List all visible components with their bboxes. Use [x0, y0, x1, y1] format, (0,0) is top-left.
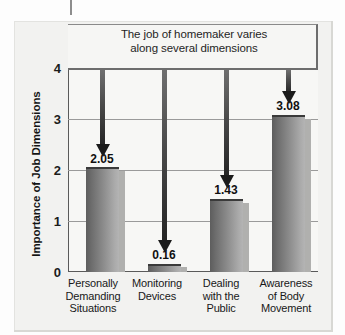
xtick-label-1-line-1: Personally — [62, 277, 124, 290]
annotation-arrow-head-4 — [282, 91, 296, 104]
figure-panel-right-edge — [331, 21, 333, 331]
y-axis-title: Importance of Job Dimensions — [30, 69, 42, 279]
annotation-arrow-shaft-1 — [100, 70, 105, 146]
annotation-arrow-shaft-4 — [286, 70, 291, 93]
xtick-label-4-line-3: Movement — [253, 302, 319, 315]
chart-title-line-1: The job of homemaker varies — [76, 27, 312, 41]
bar-cap-3 — [210, 199, 243, 201]
xtick-label-2-line-1: Monitoring — [126, 277, 188, 290]
ytick-label-2: 2 — [41, 163, 61, 178]
bar-4 — [272, 115, 305, 272]
chart-title: The job of homemaker varies along severa… — [76, 27, 312, 55]
ytick-label-3: 3 — [41, 112, 61, 127]
ytick-label-0: 0 — [41, 265, 61, 280]
ytick-label-1: 1 — [41, 214, 61, 229]
bar-shadow-1 — [119, 171, 125, 272]
xtick-label-4: Awareness of Body Movement — [253, 277, 319, 315]
bar-shadow-3 — [243, 203, 249, 272]
xtick-label-2: Monitoring Devices — [126, 277, 188, 302]
xtick-label-4-line-1: Awareness — [253, 277, 319, 290]
xtick-label-1: Personally Demanding Situations — [62, 277, 124, 315]
annotation-arrow-shaft-2 — [162, 70, 167, 242]
figure-panel-bottom-edge — [14, 330, 333, 332]
chart-figure: 4 3 2 1 0 Importance of Job Dimensions T… — [0, 0, 345, 335]
bar-1 — [86, 167, 119, 272]
annotation-arrow-head-2 — [158, 240, 172, 253]
xtick-label-3-line-3: Public — [190, 302, 252, 315]
xtick-label-2-line-2: Devices — [126, 290, 188, 303]
chart-title-line-2: along several dimensions — [76, 41, 312, 55]
bar-cap-2 — [148, 264, 181, 266]
xtick-label-3-line-2: with the — [190, 290, 252, 303]
bar-cap-4 — [272, 115, 305, 117]
ytick-label-4: 4 — [41, 61, 61, 76]
xtick-label-1-line-3: Situations — [62, 302, 124, 315]
xtick-label-3-line-1: Dealing — [190, 277, 252, 290]
annotation-arrow-shaft-3 — [224, 70, 229, 177]
bar-shadow-2 — [181, 267, 187, 272]
bar-3 — [210, 199, 243, 272]
bar-cap-1 — [86, 167, 119, 169]
xtick-label-4-line-2: of Body — [253, 290, 319, 303]
annotation-arrow-head-1 — [96, 144, 110, 157]
page-margin-tick — [70, 0, 72, 15]
bar-shadow-4 — [305, 119, 311, 272]
xtick-label-3: Dealing with the Public — [190, 277, 252, 315]
annotation-arrow-head-3 — [220, 175, 234, 188]
xtick-label-1-line-2: Demanding — [62, 290, 124, 303]
